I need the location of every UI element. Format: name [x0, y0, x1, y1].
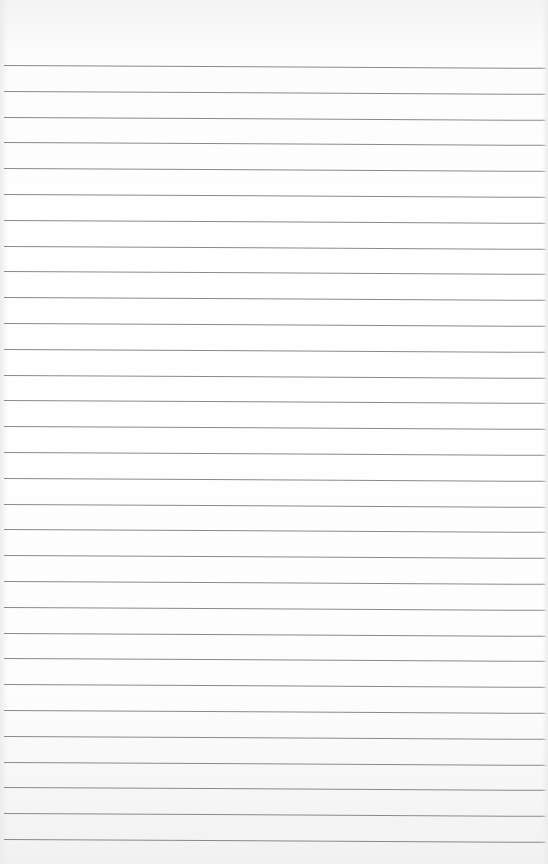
ruled-line	[4, 91, 546, 95]
ruled-line	[4, 142, 546, 146]
ruled-line	[4, 762, 546, 766]
ruled-line	[4, 194, 546, 198]
ruled-line	[4, 555, 546, 559]
ruled-line	[4, 168, 546, 172]
ruled-line	[4, 658, 546, 662]
ruled-line	[4, 220, 546, 224]
ruled-line	[4, 839, 546, 843]
ruled-line	[4, 684, 546, 688]
ruled-line	[4, 452, 546, 456]
ruled-line	[4, 607, 546, 611]
ruled-line	[4, 65, 546, 69]
ruled-line	[4, 349, 546, 353]
ruled-line	[4, 504, 546, 508]
lined-paper-sheet	[0, 0, 548, 864]
ruled-line	[4, 426, 546, 430]
ruled-line	[4, 813, 546, 817]
ruled-line	[4, 787, 546, 791]
ruled-line	[4, 323, 546, 327]
ruled-line	[4, 633, 546, 637]
ruled-line	[4, 271, 546, 275]
ruled-line	[4, 400, 546, 404]
ruled-line	[4, 581, 546, 585]
ruled-line	[4, 736, 546, 740]
ruled-line	[4, 297, 546, 301]
ruled-line	[4, 478, 546, 482]
ruled-line	[4, 246, 546, 250]
ruled-line	[4, 529, 546, 533]
ruled-line	[4, 710, 546, 714]
ruled-line	[4, 375, 546, 379]
ruled-line	[4, 117, 546, 121]
